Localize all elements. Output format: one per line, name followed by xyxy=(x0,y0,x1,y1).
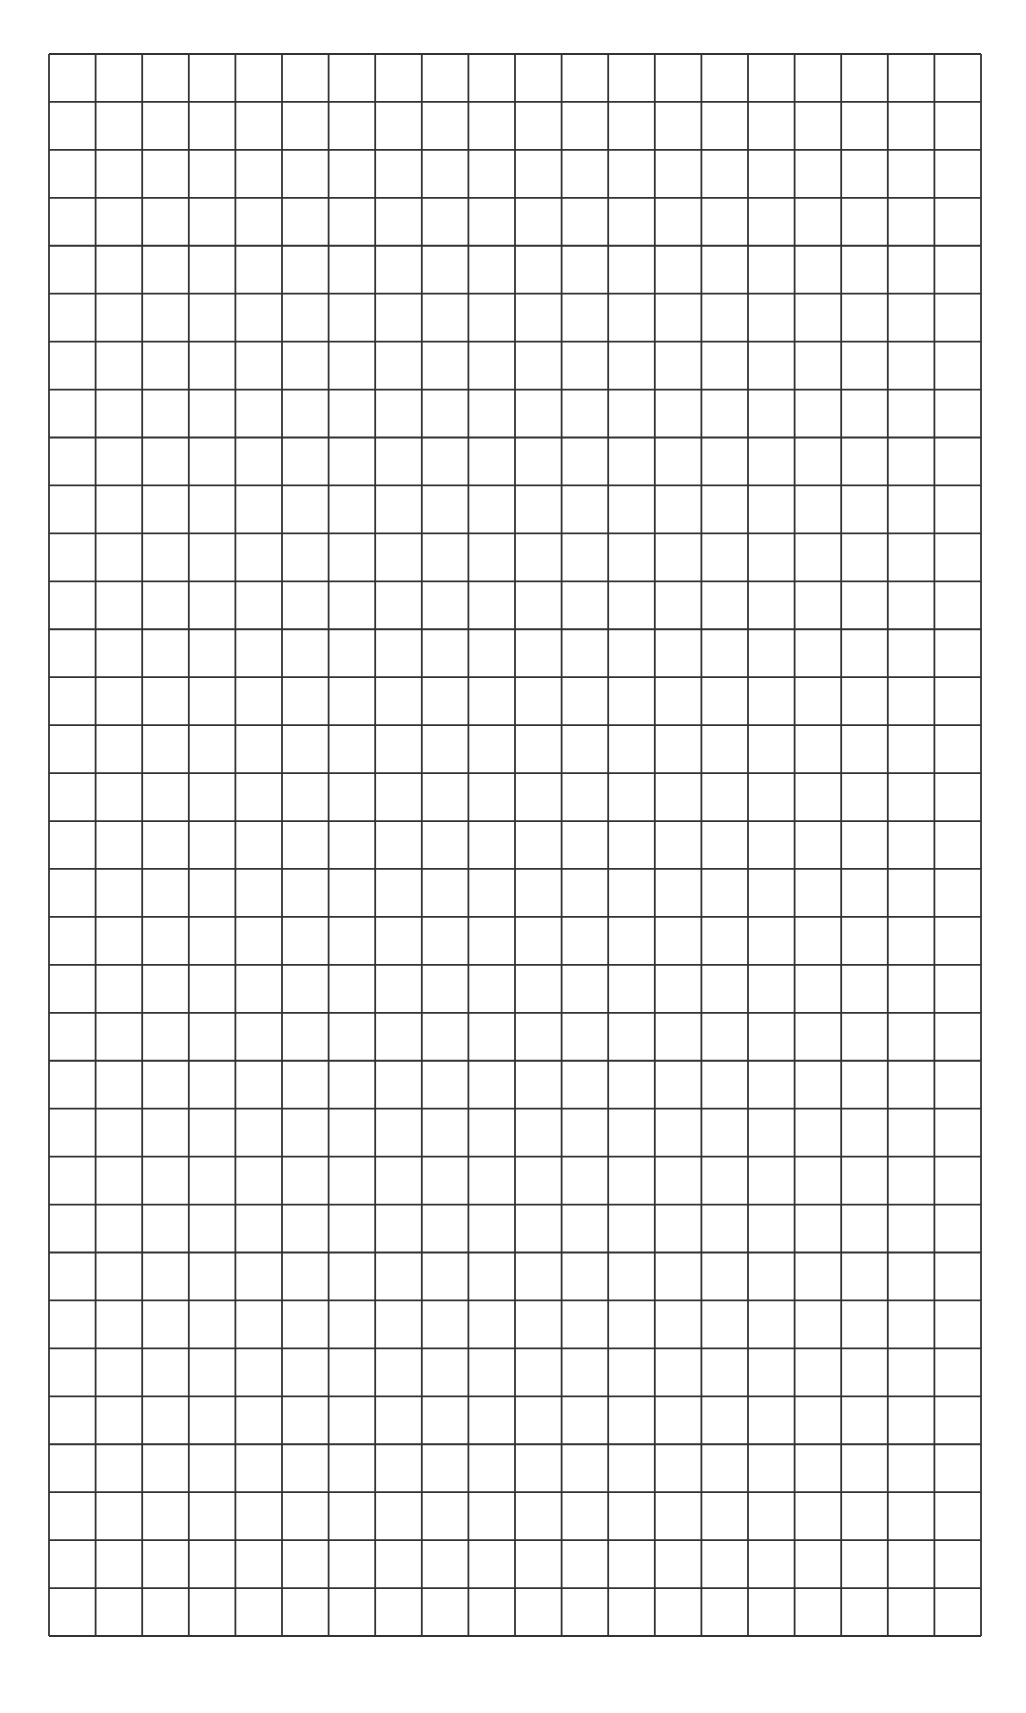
grid-lines xyxy=(49,54,981,1636)
graph-paper-grid xyxy=(49,54,981,1636)
